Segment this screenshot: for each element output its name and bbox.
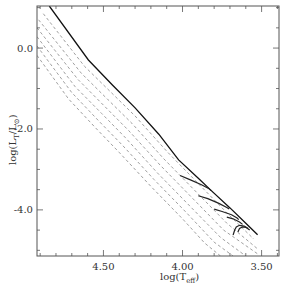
- x-axis-title: log(Teff): [160, 271, 199, 285]
- series-dashed-4: [37, 37, 246, 256]
- y-tick-label: -4.0: [14, 204, 33, 215]
- series-dashed-2: [39, 20, 257, 249]
- plot-frame: [37, 6, 279, 256]
- series-solid: [49, 6, 257, 235]
- series-dashed-5: [37, 46, 233, 256]
- y-tick-label: 0.0: [17, 43, 33, 54]
- series-dashed-6: [37, 55, 221, 256]
- x-tick-label: 3.50: [250, 261, 272, 272]
- axis-ticks: [37, 6, 279, 256]
- hr-diagram-chart: 4.504.003.50 0.0-2.0-4.0 log(Teff) log(L…: [0, 0, 289, 292]
- plot-series: [37, 6, 258, 256]
- x-tick-label: 4.50: [92, 261, 114, 272]
- series-dashed-3: [37, 28, 258, 255]
- y-axis-title: log(LT/L⊙): [7, 114, 21, 165]
- series-track-1: [180, 176, 211, 191]
